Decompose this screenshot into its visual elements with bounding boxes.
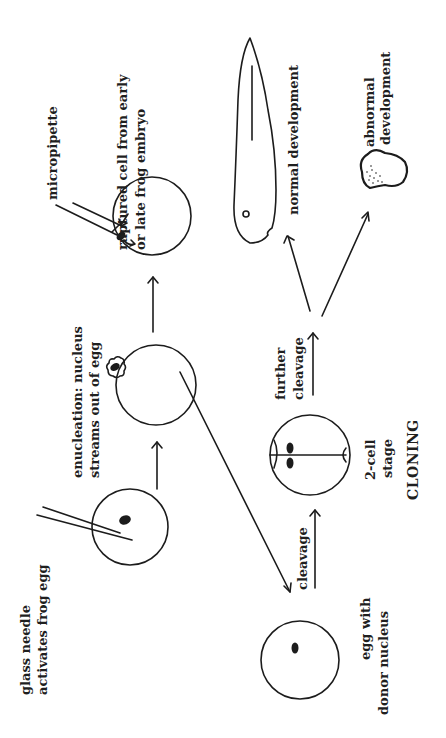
label-micropipette: micropipette [45, 106, 60, 200]
arrow-further-cleavage [308, 333, 318, 395]
cell-nucleus-icon [287, 458, 294, 469]
cell-nucleus-icon [287, 443, 294, 454]
arrow-activation-to-enucleation [152, 442, 162, 489]
label-enucleation: enucleation: nucleus [70, 326, 85, 478]
label-ruptured-cell: ruptured cell from early [115, 74, 130, 250]
label-2-cell: 2-cell [363, 439, 378, 480]
label-early-late-embryo: or late frog embryo [133, 109, 148, 250]
glass-needle-icon [37, 515, 132, 540]
arrow-enucleation-to-injection [148, 277, 158, 332]
label-egg-with: egg with [358, 597, 373, 660]
egg-two-cell [270, 415, 350, 495]
label-donor-nucleus: donor nucleus [376, 611, 391, 715]
diagram-title: CLONING [405, 419, 421, 500]
egg-activation [37, 489, 168, 565]
label-glass-needle: glass needle [18, 605, 33, 695]
egg-circle [261, 621, 339, 699]
label-cleavage-2: cleavage [291, 337, 306, 400]
arrow-cleavage [310, 510, 320, 588]
egg-circle [116, 345, 196, 425]
arrow-to-abnormal [322, 212, 369, 316]
tadpole-icon [234, 38, 276, 243]
label-cleavage: cleavage [295, 527, 310, 590]
arrow-injection-to-donor-egg [180, 372, 291, 592]
label-normal-development: normal development [286, 65, 301, 215]
label-further: further [273, 347, 288, 400]
cloning-diagram: glass needle activates frog egg enucleat… [0, 0, 446, 738]
egg-nucleus-icon [118, 514, 132, 527]
egg-donor-nucleus [261, 621, 339, 699]
abnormal-embryo-icon [361, 150, 407, 188]
label-streams-out: streams out of egg [87, 342, 102, 478]
label-stage: stage [380, 439, 395, 478]
egg-enucleation [107, 345, 196, 425]
arrow-to-normal [284, 236, 310, 311]
egg-nucleus-icon [292, 643, 299, 654]
label-activates-frog-egg: activates frog egg [35, 564, 50, 695]
label-abnormal: abnormal [362, 77, 377, 147]
label-development: development [378, 52, 393, 145]
